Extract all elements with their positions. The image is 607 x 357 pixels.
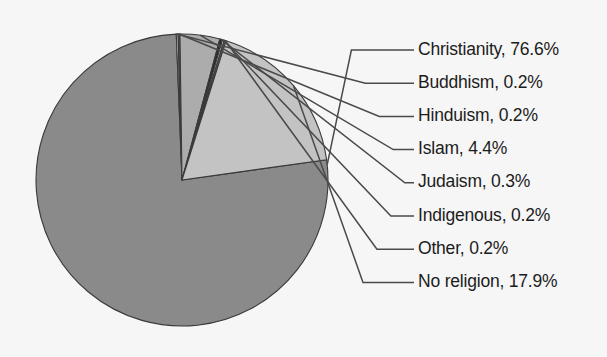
slice-label: Indigenous, 0.2% — [418, 205, 550, 225]
slice-label: Christianity, 76.6% — [418, 39, 559, 59]
pie-chart-figure: Christianity, 76.6%Buddhism, 0.2%Hinduis… — [0, 0, 607, 357]
pie-chart-svg: Christianity, 76.6%Buddhism, 0.2%Hinduis… — [0, 0, 607, 357]
slice-label: Buddhism, 0.2% — [418, 72, 543, 92]
slice-label: Judaism, 0.3% — [418, 171, 530, 191]
slice-label: Islam, 4.4% — [418, 138, 507, 158]
slice-label: Other, 0.2% — [418, 238, 508, 258]
slice-label: Hinduism, 0.2% — [418, 105, 538, 125]
slice-label: No religion, 17.9% — [418, 271, 557, 291]
